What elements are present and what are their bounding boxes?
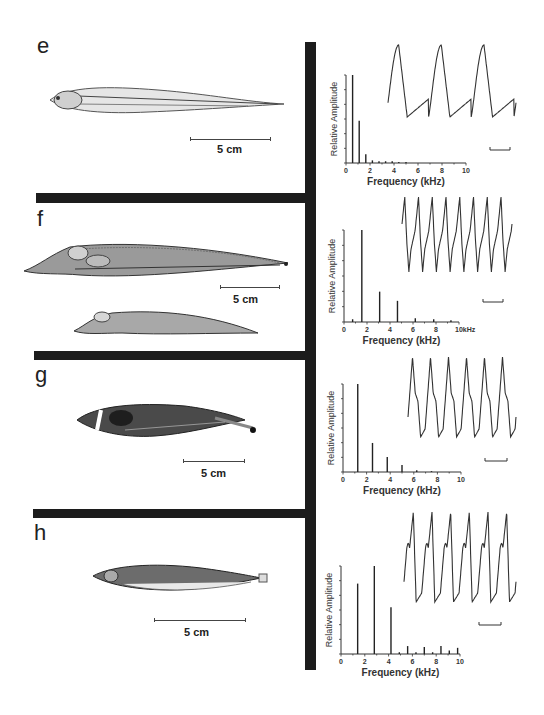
x-tick-label: 4 bbox=[387, 658, 391, 665]
x-tick-label: 0 bbox=[344, 167, 348, 174]
x-tick-label: 8 bbox=[440, 167, 444, 174]
x-tick-label: 6 bbox=[411, 326, 415, 333]
x-tick-label: 6 bbox=[410, 658, 414, 665]
x-tick-label: 4 bbox=[388, 326, 392, 333]
x-tick-label: 2 bbox=[363, 658, 367, 665]
y-axis-title: Relative Amplitude bbox=[327, 239, 337, 314]
x-tick-label: 8 bbox=[434, 658, 438, 665]
x-tick-label: 10 bbox=[456, 658, 464, 665]
eod-waveform bbox=[388, 45, 516, 117]
x-axis-title: Frequency (kHz) bbox=[367, 176, 445, 187]
x-tick-label: 10 bbox=[462, 167, 470, 174]
time-scale-bar bbox=[490, 147, 510, 150]
x-tick-label: 4 bbox=[388, 476, 392, 483]
time-scale-bar bbox=[483, 299, 503, 302]
x-tick-label: 2 bbox=[365, 476, 369, 483]
spectrum-chart-e: 0246810Frequency (kHz)Relative Amplitude bbox=[329, 45, 516, 187]
x-tick-label: 2 bbox=[365, 326, 369, 333]
x-tick-label: 10 bbox=[457, 476, 465, 483]
y-axis-title: Relative Amplitude bbox=[329, 82, 339, 157]
time-scale-bar bbox=[485, 458, 507, 461]
spectrum-chart-h: 0246810Frequency (kHz)Relative Amplitude bbox=[324, 512, 516, 678]
x-tick-label: 4 bbox=[392, 167, 396, 174]
time-scale-bar bbox=[479, 622, 501, 625]
x-tick-label: 6 bbox=[412, 476, 416, 483]
x-tick-label: 0 bbox=[341, 476, 345, 483]
spectrum-chart-g: 0246810Frequency (kHz)Relative Amplitude bbox=[326, 357, 516, 496]
x-tick-label: 8 bbox=[435, 476, 439, 483]
x-axis-title: Frequency (kHz) bbox=[363, 335, 441, 346]
y-axis-title: Relative Amplitude bbox=[326, 391, 336, 466]
spectrum-chart-f: 0246810kHzFrequency (kHz)Relative Amplit… bbox=[327, 197, 512, 346]
eod-waveform bbox=[408, 357, 516, 437]
eod-waveform bbox=[404, 512, 516, 602]
x-axis-title: Frequency (kHz) bbox=[362, 667, 440, 678]
x-tick-label: 8 bbox=[434, 326, 438, 333]
x-tick-label: 6 bbox=[416, 167, 420, 174]
x-tick-label: 0 bbox=[342, 326, 346, 333]
eod-waveform bbox=[402, 197, 512, 272]
x-tick-label: 2 bbox=[368, 167, 372, 174]
x-tick-label: 10kHz bbox=[455, 326, 476, 333]
x-axis-title: Frequency (kHz) bbox=[363, 485, 441, 496]
spectra-charts: 0246810Frequency (kHz)Relative Amplitude… bbox=[0, 0, 544, 715]
y-axis-title: Relative Amplitude bbox=[324, 573, 334, 648]
x-tick-label: 0 bbox=[339, 658, 343, 665]
